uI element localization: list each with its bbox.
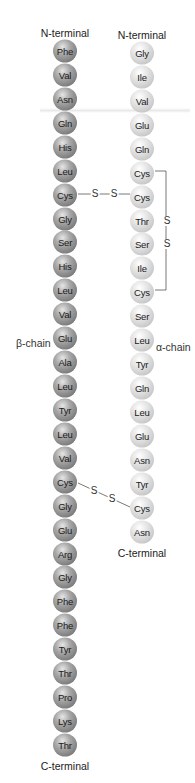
sulfur-atom: S	[163, 239, 172, 249]
sulfur-atom: S	[91, 189, 100, 199]
residue-bead: Cys	[130, 281, 154, 304]
alpha-chain-label: α-chain	[156, 341, 191, 353]
residue-bead: Ala	[53, 351, 77, 374]
residue-bead: Thr	[53, 733, 77, 756]
residue-bead: Tyr	[130, 353, 154, 376]
residue-bead: Pro	[53, 686, 77, 709]
residue-bead: Lys	[53, 710, 77, 733]
beta-n-terminal-label: N-terminal	[41, 27, 89, 39]
residue-bead: Cys	[130, 161, 154, 184]
residue-bead: Glu	[53, 327, 77, 350]
residue-bead: Gly	[53, 494, 77, 517]
residue-bead: Asn	[53, 87, 77, 110]
alpha-c-terminal-label: C-terminal	[118, 547, 166, 559]
residue-bead: Tyr	[53, 638, 77, 661]
residue-bead: His	[53, 255, 77, 278]
residue-bead: Leu	[130, 329, 154, 352]
residue-bead: Gly	[130, 42, 154, 65]
residue-bead: Glu	[53, 518, 77, 541]
residue-bead: Ser	[130, 305, 154, 328]
residue-bead: Val	[130, 89, 154, 112]
residue-bead: Val	[53, 446, 77, 469]
residue-bead: Ser	[53, 231, 77, 254]
beta-c-terminal-label: C-terminal	[41, 760, 89, 772]
residue-bead: Leu	[53, 422, 77, 445]
residue-bead: Leu	[53, 375, 77, 398]
residue-bead: Thr	[53, 662, 77, 685]
residue-bead: Val	[53, 63, 77, 86]
residue-bead: Asn	[130, 448, 154, 471]
residue-bead: Arg	[53, 542, 77, 565]
alpha-n-terminal-label: N-terminal	[118, 29, 166, 41]
residue-bead: Leu	[130, 400, 154, 423]
residue-bead: Phe	[53, 40, 77, 63]
residue-bead: Gln	[130, 137, 154, 160]
residue-bead: Gly	[53, 207, 77, 230]
residue-bead: Tyr	[53, 398, 77, 421]
residue-bead: Val	[53, 303, 77, 326]
sulfur-atom: S	[90, 486, 99, 496]
residue-bead: Cys	[53, 470, 77, 493]
residue-bead: Cys	[53, 183, 77, 206]
residue-bead: Glu	[130, 424, 154, 447]
residue-bead: Tyr	[130, 472, 154, 495]
residue-bead: Cys	[130, 496, 154, 519]
residue-bead: Ile	[130, 257, 154, 280]
residue-bead: Phe	[53, 590, 77, 613]
residue-bead: Cys	[130, 185, 154, 208]
residue-bead: Thr	[130, 209, 154, 232]
residue-bead: Leu	[53, 279, 77, 302]
residue-bead: Gly	[53, 566, 77, 589]
residue-bead: Gln	[53, 111, 77, 134]
residue-bead: Ile	[130, 65, 154, 88]
residue-bead: Leu	[53, 159, 77, 182]
residue-bead: Glu	[130, 113, 154, 136]
beta-chain-label: β-chain	[16, 337, 51, 349]
sulfur-atom: S	[163, 216, 172, 226]
disulfide-bond-lines	[0, 0, 195, 783]
residue-bead: Ser	[130, 233, 154, 256]
sulfur-atom: S	[110, 189, 119, 199]
residue-bead: Asn	[130, 520, 154, 543]
residue-bead: His	[53, 135, 77, 158]
residue-bead: Gln	[130, 377, 154, 400]
residue-bead: Phe	[53, 614, 77, 637]
sulfur-atom: S	[108, 494, 117, 504]
